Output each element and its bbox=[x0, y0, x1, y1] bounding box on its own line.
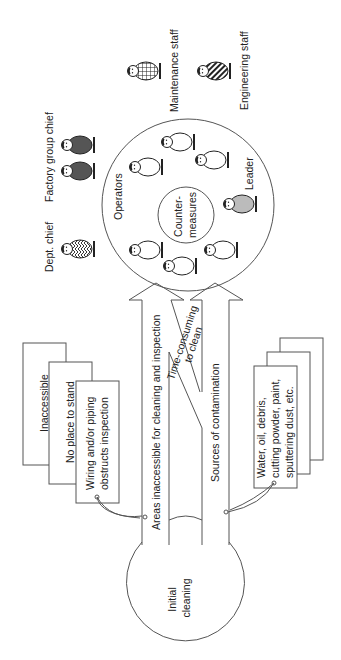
maintenance-staff-icon bbox=[128, 62, 161, 80]
factory-group-chief-label: Factory group chief bbox=[43, 112, 55, 202]
right-cards: Water, oil, debris, cutting powder, pain… bbox=[224, 338, 323, 514]
countermeasures-label: Counter- measures bbox=[172, 192, 198, 238]
factory-group-chief-icon bbox=[62, 162, 95, 180]
left-arrow-label: Areas inaccessible for cleaning and insp… bbox=[150, 314, 162, 530]
right-arrow-label: Sources of contamination bbox=[209, 363, 221, 482]
maintenance-staff-label: Maintenance staff bbox=[168, 29, 180, 112]
operators-label: Operators bbox=[112, 173, 124, 220]
card-inaccessible: Inaccessible bbox=[38, 374, 50, 432]
card-no-place-to-stand: No place to stand bbox=[64, 381, 76, 463]
initial-cleaning-node: Initial cleaning bbox=[127, 542, 245, 641]
left-cards: Inaccessible No place to stand Wiring an… bbox=[23, 343, 147, 519]
leader-label: Leader bbox=[243, 157, 255, 190]
dept-chief-icon bbox=[62, 240, 95, 258]
operator-icon bbox=[205, 241, 238, 259]
engineering-staff-label: Engineering staff bbox=[238, 31, 250, 110]
engineering-staff-icon bbox=[198, 62, 231, 80]
initial-cleaning-label: Initial cleaning bbox=[166, 578, 192, 617]
middle-arrow-label: Time-consuming to clean bbox=[164, 301, 211, 384]
dept-chief-label: Dept. chief bbox=[43, 222, 55, 272]
operator-icon bbox=[130, 241, 163, 259]
operator-icon bbox=[164, 257, 197, 275]
diagram-canvas: Initial cleaning Areas inaccessible for … bbox=[0, 0, 341, 660]
factory-group-chief-icon bbox=[62, 136, 95, 154]
operator-icon bbox=[162, 133, 195, 151]
operator-icon bbox=[196, 151, 229, 169]
operator-icon bbox=[130, 158, 163, 176]
leader-icon bbox=[224, 195, 257, 213]
